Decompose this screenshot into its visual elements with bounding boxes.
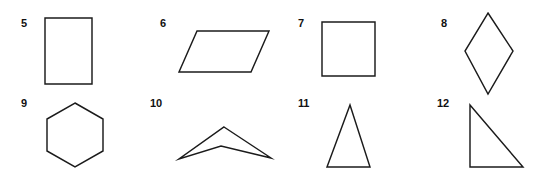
right-triangle-outline xyxy=(470,105,523,167)
parallelogram-shape xyxy=(172,22,276,82)
right-triangle-shape xyxy=(460,98,532,174)
figure-number-label-12: 12 xyxy=(437,98,449,109)
figure-number-label-6: 6 xyxy=(160,18,166,29)
figure-number-label-7: 7 xyxy=(298,18,304,29)
figure-number-label-10: 10 xyxy=(150,98,162,109)
isosceles-triangle-outline xyxy=(327,105,370,167)
hexagon-shape xyxy=(38,98,114,174)
figure-number-label-8: 8 xyxy=(441,18,447,29)
figure-12: 12 xyxy=(0,0,138,90)
chevron-quadrilateral-outline xyxy=(179,127,271,159)
rhombus-shape xyxy=(455,6,525,100)
worksheet-canvas: 5 6 7 8 9 10 1 xyxy=(0,0,554,180)
square-outline xyxy=(322,22,375,76)
figure-number-label-9: 9 xyxy=(21,98,27,109)
chevron-quadrilateral-shape xyxy=(170,118,280,168)
hexagon-outline xyxy=(47,103,103,167)
rhombus-outline xyxy=(465,13,513,94)
isosceles-triangle-shape xyxy=(318,98,380,174)
square-shape xyxy=(315,14,385,86)
figure-number-label-11: 11 xyxy=(298,98,309,109)
parallelogram-outline xyxy=(179,31,269,72)
